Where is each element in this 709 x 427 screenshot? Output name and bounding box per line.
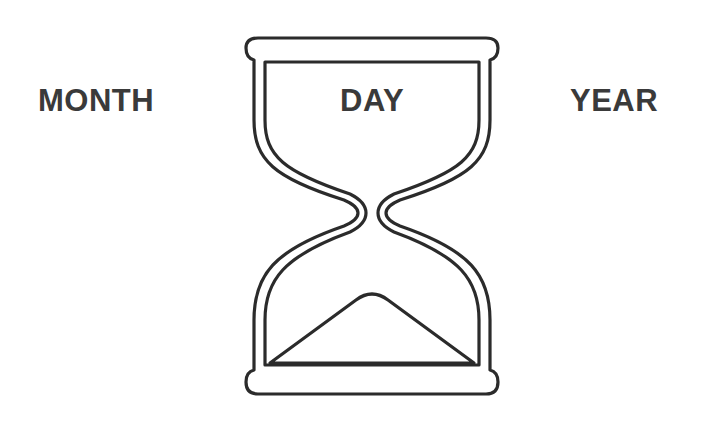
hourglass-sand-pile [270,294,474,363]
day-label: DAY [340,85,404,116]
hourglass-diagram: MONTH DAY YEAR [0,0,709,427]
hourglass-icon [0,0,709,427]
year-label: YEAR [570,85,658,116]
month-label: MONTH [38,85,154,116]
